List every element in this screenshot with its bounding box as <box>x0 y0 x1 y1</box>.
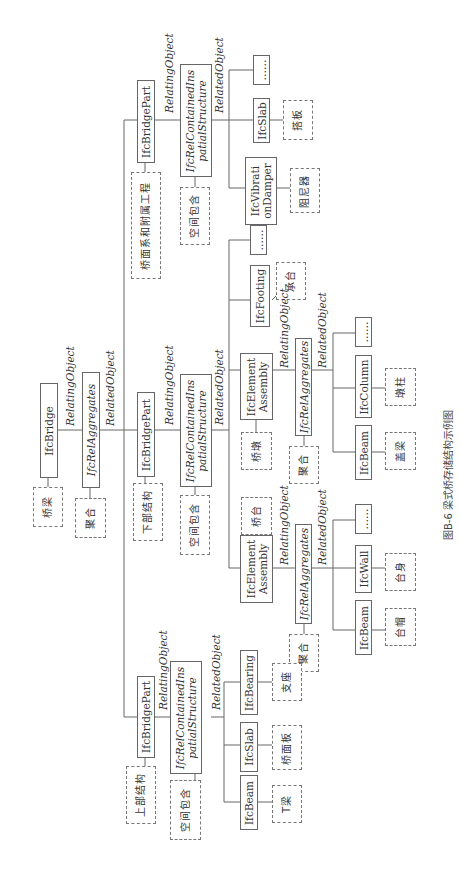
super-rel-contained-node: IfcRelContainedInspatialStructure <box>170 661 202 774</box>
deck-system-tag: 桥面系和附属工程 <box>131 172 161 279</box>
deck-related-label: RelatedObject <box>213 37 225 113</box>
ifcbridge-node: IfcBridge <box>40 383 58 478</box>
super-related-label: RelatedObject <box>210 634 222 710</box>
abutment-related-label: RelatedObject <box>316 489 328 565</box>
pier-assembly-node: IfcElementAssembly <box>240 353 273 420</box>
cap-beam-tag: 盖梁 <box>385 432 416 470</box>
superstructure-tag: 上部结构 <box>126 766 156 824</box>
pier-aggregation-tag: 聚合 <box>289 446 319 484</box>
deck-slab-tag: 桥面板 <box>272 725 302 770</box>
pier-column-tag: 墩柱 <box>385 368 416 406</box>
root-related-label: RelatedObject <box>104 350 116 426</box>
ifccolumn-node: IfcColumn <box>355 355 372 418</box>
abutment-assembly-node: IfcElementAssembly <box>240 535 273 603</box>
ifcslab-deck-node: IfcSlab <box>240 722 258 772</box>
super-bridgepart-node: IfcBridgePart <box>137 676 155 758</box>
super-spatial-tag: 空间包含 <box>170 780 201 840</box>
bridge-tag: 桥梁 <box>33 487 63 527</box>
ifcbearing-node: IfcBearing <box>240 650 258 715</box>
deck-spatial-tag: 空间包含 <box>180 187 210 245</box>
ifcfooting-node: IfcFooting <box>250 265 270 327</box>
abutment-more-node: …… <box>355 504 372 534</box>
ifcwall-node: IfcWall <box>355 545 372 593</box>
abutment-tag: 桥台 <box>241 497 272 535</box>
root-aggregation-tag: 聚合 <box>75 498 106 538</box>
sub-more-node: …… <box>250 225 267 255</box>
super-relating-label: RelatingObject <box>157 630 169 710</box>
ifcslab-approach-node: IfcSlab <box>253 98 270 143</box>
ifcbeam-capbeam-node: IfcBeam <box>355 425 372 480</box>
pier-more-node: …… <box>355 317 372 347</box>
abutment-rel-aggregates-node: IfcRelAggregates <box>295 524 312 624</box>
sub-related-label: RelatedObject <box>213 349 225 425</box>
damper-tag: 阻尼器 <box>290 168 320 213</box>
root-relating-label: RelatingObject <box>64 346 76 426</box>
approach-slab-tag: 搭板 <box>283 100 313 140</box>
deck-more-node: …… <box>253 55 270 85</box>
sub-rel-contained-node: IfcRelContainedInspatialStructure <box>180 374 212 487</box>
t-beam-tag: T梁 <box>272 785 302 823</box>
sub-bridgepart-node: IfcBridgePart <box>137 392 155 477</box>
deck-rel-contained-node: IfcRelContainedInspatialStructure <box>180 64 212 177</box>
pier-relating-label: RelatingObject <box>278 288 290 368</box>
pier-rel-aggregates-node: IfcRelAggregates <box>295 338 312 436</box>
pier-related-label: RelatedObject <box>316 292 328 368</box>
sub-spatial-tag: 空间包含 <box>180 495 210 555</box>
diagram-canvas: IfcBridge 桥梁 IfcRelAggregates 聚合 Relatin… <box>0 0 460 882</box>
pier-tag: 桥墩 <box>241 432 272 470</box>
abutment-body-tag: 台身 <box>385 553 416 591</box>
ifcbeam-tbeam-node: IfcBeam <box>240 775 258 830</box>
deck-bridgepart-node: IfcBridgePart <box>137 80 155 163</box>
ifcbeam-abutcap-node: IfcBeam <box>355 600 372 655</box>
figure-caption: 图B-6 梁式桥存储结构示例图 <box>440 410 455 540</box>
abutment-cap-tag: 台帽 <box>385 608 416 646</box>
abutment-relating-label: RelatingObject <box>278 485 290 565</box>
bearing-tag: 支座 <box>272 663 302 701</box>
ifcbridge-label: IfcBridge <box>43 406 55 456</box>
deck-relating-label: RelatingObject <box>163 33 175 113</box>
ifcvibrationdamper-node: IfcVibrationDamper <box>245 157 277 225</box>
substructure-tag: 下部结构 <box>133 483 163 541</box>
root-rel-aggregates-node: IfcRelAggregates <box>82 372 100 488</box>
sub-relating-label: RelatingObject <box>163 345 175 425</box>
